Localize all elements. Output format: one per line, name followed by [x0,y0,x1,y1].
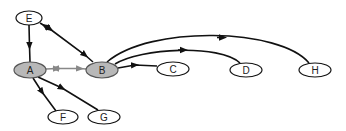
node-b-label: B [99,65,106,76]
node-h[interactable]: H [299,63,331,77]
node-h-label: H [311,65,318,76]
edge-a-b [46,69,86,70]
node-b[interactable]: B [86,62,118,78]
node-f-label: F [60,112,66,123]
node-e-label: E [26,13,33,24]
edge-e-a [29,25,30,62]
edge-a-g [38,77,98,110]
node-a[interactable]: A [14,62,46,78]
graph-diagram: E A B C D H F G [0,0,346,131]
edge-b-h [107,35,309,63]
edge-b-c [118,65,157,68]
node-d[interactable]: D [230,63,262,77]
edge-e-b [40,23,93,62]
node-g-label: G [100,112,108,123]
node-e[interactable]: E [16,11,42,25]
node-f[interactable]: F [48,110,78,124]
node-d-label: D [242,65,249,76]
nodes: E A B C D H F G [14,11,331,124]
node-c-label: C [169,64,176,75]
node-g[interactable]: G [88,110,120,124]
node-c[interactable]: C [157,62,189,76]
node-a-label: A [27,65,34,76]
